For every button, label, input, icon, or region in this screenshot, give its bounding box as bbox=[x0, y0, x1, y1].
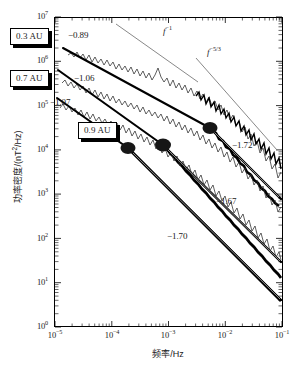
plot-area bbox=[54, 17, 283, 327]
y-tick-label: 102 bbox=[14, 234, 48, 243]
slope-label-07au-high: −1.67 bbox=[216, 196, 236, 206]
x-tick-label: 10−3 bbox=[150, 331, 186, 340]
y-tick-label: 101 bbox=[14, 278, 48, 287]
x-tick-label: 10−5 bbox=[37, 331, 73, 340]
slope-label-07au-low: −1.06 bbox=[74, 73, 94, 83]
y-axis-label: 功率密度/(nT2/Hz) bbox=[11, 121, 24, 213]
y-tick-label: 107 bbox=[14, 12, 48, 21]
reference-label-f-minus-5-3: f−5/3 bbox=[207, 47, 221, 57]
y-tick-label: 106 bbox=[14, 56, 48, 65]
x-tick-label: 10−1 bbox=[264, 331, 296, 340]
x-tick-label: 10−4 bbox=[94, 331, 130, 340]
x-tick-label: 10−2 bbox=[207, 331, 243, 340]
callout-03au: 0.3 AU bbox=[10, 28, 49, 45]
spectral-density-figure: 107 106 105 104 103 102 101 100 10−5 10−… bbox=[0, 0, 296, 367]
slope-label-03au-high: −1.72 bbox=[232, 140, 252, 150]
y-tick-label: 100 bbox=[14, 322, 48, 331]
x-axis-label: 频率/Hz bbox=[103, 347, 233, 360]
slope-label-03au-low: −0.89 bbox=[68, 30, 88, 40]
callout-07au: 0.7 AU bbox=[10, 70, 49, 87]
reference-label-f-minus-1: f−1 bbox=[163, 26, 172, 36]
callout-09au: 0.9 AU bbox=[78, 122, 117, 139]
slope-label-09au-low: −1.07 bbox=[50, 97, 70, 107]
y-tick-label: 105 bbox=[14, 101, 48, 110]
slope-label-09au-high: −1.70 bbox=[167, 231, 187, 241]
